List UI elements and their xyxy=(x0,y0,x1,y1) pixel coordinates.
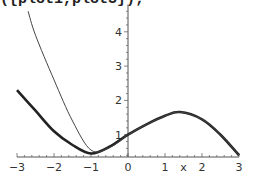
x-axis-label: x xyxy=(180,161,187,174)
x-tick-label: 2 xyxy=(199,161,206,174)
x-tick-label: 0 xyxy=(125,161,132,174)
x-tick-label: 3 xyxy=(236,161,243,174)
y-tick-label: 2 xyxy=(115,94,122,107)
y-tick-label: 4 xyxy=(115,26,122,39)
axes: −3−2−10123x1234 xyxy=(9,4,243,174)
x-tick-label: −2 xyxy=(46,161,62,174)
thin-curve xyxy=(28,11,239,155)
x-tick-label: 1 xyxy=(162,161,169,174)
line-chart: −3−2−10123x1234 xyxy=(0,0,253,180)
x-tick-label: −1 xyxy=(83,161,99,174)
x-tick-label: −3 xyxy=(9,161,25,174)
y-tick-label: 3 xyxy=(115,60,122,73)
